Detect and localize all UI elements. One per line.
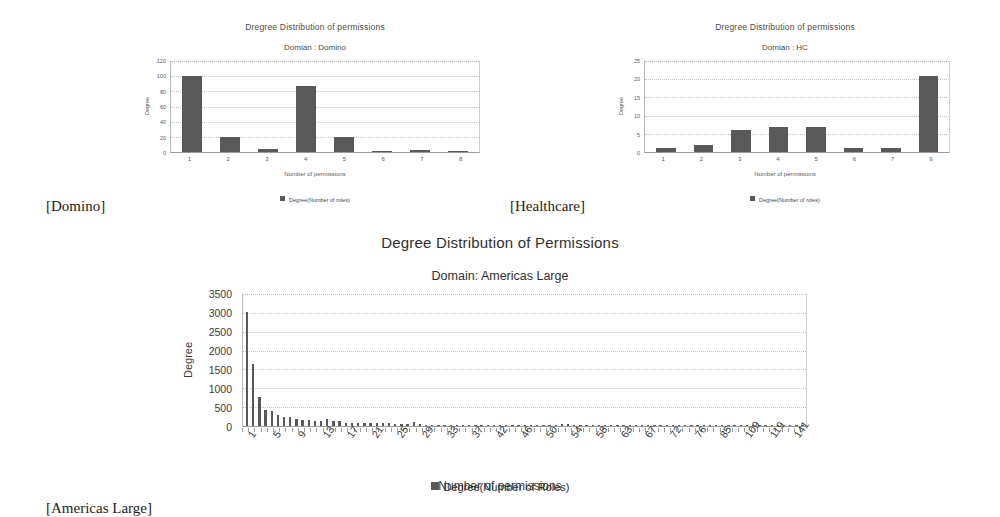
bar <box>511 425 513 426</box>
bar <box>357 423 359 426</box>
bar <box>740 425 742 426</box>
y-tick-label: 3000 <box>209 307 232 319</box>
bar <box>641 425 643 426</box>
y-axis-tick-labels: 0510152025 <box>618 61 640 153</box>
x-tick-label: 5 <box>797 156 835 162</box>
bar <box>431 425 433 426</box>
chart-legend: Degree(Number of Roles) <box>180 480 820 493</box>
bar-series <box>243 294 806 426</box>
bar-series <box>645 61 949 152</box>
bar <box>258 149 278 152</box>
bar <box>919 76 939 152</box>
bar <box>277 415 279 426</box>
plot-area: Degree 020406080100120 12345678 Number o… <box>140 61 490 206</box>
bar-cell <box>211 61 249 152</box>
x-tick-label: 3 <box>721 156 759 162</box>
y-tick-label: 2000 <box>209 345 232 357</box>
x-tick-label: 9 <box>912 156 950 162</box>
legend-swatch-icon <box>750 196 755 201</box>
bar <box>410 150 430 152</box>
bar-cell <box>760 61 798 152</box>
bar <box>419 424 421 426</box>
bar <box>731 130 751 152</box>
bar <box>320 421 322 426</box>
bar-cell <box>685 61 723 152</box>
bar <box>505 425 507 426</box>
bar <box>369 423 371 426</box>
bar <box>406 424 408 426</box>
legend-label: Degree(Number of Roles) <box>444 481 570 493</box>
bar <box>301 420 303 426</box>
bar <box>283 417 285 426</box>
bar-cell <box>722 61 760 152</box>
bar <box>468 425 470 426</box>
bar <box>585 425 587 426</box>
bar <box>334 137 354 152</box>
bar <box>694 145 714 152</box>
y-tick-label: 10 <box>634 113 640 119</box>
bar <box>733 425 735 426</box>
legend-swatch-icon <box>280 196 285 201</box>
y-tick-label: 40 <box>160 119 166 125</box>
y-tick-label: 0 <box>637 150 640 156</box>
x-tick-label: 7 <box>874 156 912 162</box>
bar-cell <box>647 61 685 152</box>
bar <box>314 421 316 426</box>
bar <box>363 423 365 426</box>
bar <box>437 425 439 426</box>
y-tick-label: 1500 <box>209 364 232 376</box>
chart-title: Degree Distribution of Permissions <box>180 234 820 251</box>
bar-cell <box>799 294 805 426</box>
bar <box>592 425 594 426</box>
bar <box>806 127 826 152</box>
y-tick-label: 120 <box>157 58 166 64</box>
x-tick-label: 5 <box>325 156 364 162</box>
x-tick-label: 4 <box>286 156 325 162</box>
bar <box>659 425 661 426</box>
figure-caption-healthcare: [Healthcare] <box>510 198 585 215</box>
chart-panel-healthcare: Dregree Distribution of permissions Domi… <box>610 20 960 220</box>
bar <box>220 137 240 152</box>
chart-panel-domino: Dregree Distribution of permissions Domi… <box>140 20 490 220</box>
bar <box>258 397 260 426</box>
y-tick-label: 500 <box>214 402 232 414</box>
x-tick-label: 6 <box>364 156 403 162</box>
plot-area: Degree 0510152025 12345679 Number of per… <box>610 61 960 206</box>
bar <box>413 422 415 426</box>
bar <box>769 127 789 152</box>
legend-label: Degree(Number of roles) <box>759 197 820 203</box>
bar <box>264 410 266 426</box>
bar <box>881 148 901 152</box>
bar <box>332 421 334 426</box>
bar-cell <box>173 61 211 152</box>
x-tick-label: 3 <box>248 156 287 162</box>
bar <box>487 425 489 426</box>
x-tick-label: 7 <box>403 156 442 162</box>
bar <box>709 425 711 426</box>
bar-cell <box>835 61 873 152</box>
x-tick-label: 2 <box>209 156 248 162</box>
chart-subtitle: Domian : HC <box>610 43 960 52</box>
bar <box>561 424 563 426</box>
plot-canvas <box>170 61 480 153</box>
bar <box>610 425 612 426</box>
chart-title: Dregree Distribution of permissions <box>140 22 490 32</box>
bar-cell <box>797 61 835 152</box>
chart-panel-americas-large: Degree Distribution of Permissions Domai… <box>180 232 820 517</box>
x-axis-title: Number of permissions <box>610 171 960 177</box>
bar <box>382 423 384 426</box>
y-axis-tick-labels: 020406080100120 <box>144 61 166 153</box>
y-tick-label: 60 <box>160 104 166 110</box>
bar <box>666 425 668 426</box>
chart-legend: Degree(Number of roles) <box>140 196 490 203</box>
y-tick-label: 0 <box>226 421 232 433</box>
bar <box>252 364 254 426</box>
y-tick-label: 3500 <box>209 288 232 300</box>
bar-cell <box>363 61 401 152</box>
bar <box>764 425 766 426</box>
bar <box>517 425 519 426</box>
bar <box>296 86 316 152</box>
bar <box>388 423 390 426</box>
bar <box>443 425 445 426</box>
bar <box>789 425 791 426</box>
